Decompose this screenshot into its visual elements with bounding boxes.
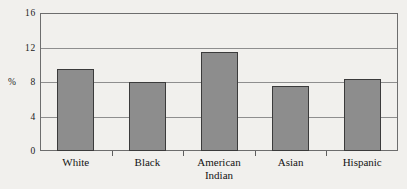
bar-chart: 0481216 % WhiteBlackAmerican IndianAsian…	[0, 0, 407, 189]
y-axis-tick-label: 16	[2, 8, 36, 18]
y-axis-tick-label: 12	[2, 43, 36, 53]
y-axis-tick-labels: 0481216	[0, 0, 36, 189]
x-axis-category-label: Hispanic	[326, 156, 398, 169]
x-axis-category-label: White	[40, 156, 112, 169]
bar	[129, 82, 166, 151]
x-axis-category-label: Black	[112, 156, 184, 169]
bar	[201, 52, 238, 151]
bar	[344, 79, 381, 151]
y-axis-tick-label: 4	[2, 112, 36, 122]
x-axis-category-label: American Indian	[183, 156, 255, 182]
bar	[272, 86, 309, 151]
x-axis-category-label: Asian	[255, 156, 327, 169]
bars-layer	[40, 13, 398, 151]
bar	[57, 69, 94, 151]
y-axis-title: %	[8, 77, 16, 87]
y-axis-tick-label: 0	[2, 146, 36, 156]
